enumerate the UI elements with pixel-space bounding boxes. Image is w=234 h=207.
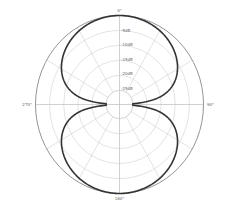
- angle-label-270: 270°: [22, 102, 32, 107]
- polar-plot: 0° 90° 180° 270° -5dB -10dB -15dB -20dB …: [0, 0, 234, 207]
- polar-pattern-chart: 0° 90° 180° 270° -5dB -10dB -15dB -20dB …: [0, 0, 234, 207]
- ring-label-10db: -10dB: [121, 42, 133, 47]
- angle-label-90: 90°: [207, 102, 214, 107]
- ring-label-25db: -25dB: [121, 86, 133, 91]
- ring-label-15db: -15dB: [121, 57, 133, 62]
- angle-label-180: 180°: [115, 196, 125, 201]
- ring-label-20db: -20dB: [121, 71, 133, 76]
- ring-label-5db: -5dB: [121, 28, 131, 33]
- grid-spokes: [36, 16, 204, 194]
- angle-label-0: 0°: [117, 8, 122, 13]
